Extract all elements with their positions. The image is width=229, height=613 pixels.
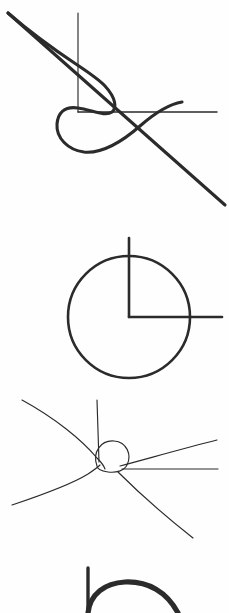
figure-circle-corner <box>0 210 229 390</box>
arc-curve <box>88 582 178 613</box>
branch-upper-left <box>22 400 105 469</box>
branch-lower-right <box>118 472 193 538</box>
figure-loop-crossing <box>0 0 229 210</box>
loop-curve <box>8 13 182 152</box>
multi-radial-drawing <box>0 390 229 550</box>
node-loop <box>96 441 129 472</box>
loop-crossing-drawing <box>0 0 229 210</box>
branch-upper-right <box>120 440 217 466</box>
circle-corner-drawing <box>0 210 229 390</box>
diagonal-line <box>8 13 225 205</box>
branch-vertical-up <box>97 400 99 462</box>
partial-arc-drawing <box>0 550 229 613</box>
figure-multi-radial <box>0 390 229 550</box>
figure-sheet <box>0 0 229 613</box>
figure-partial-arc <box>0 550 229 613</box>
branch-lower-left <box>12 465 100 505</box>
